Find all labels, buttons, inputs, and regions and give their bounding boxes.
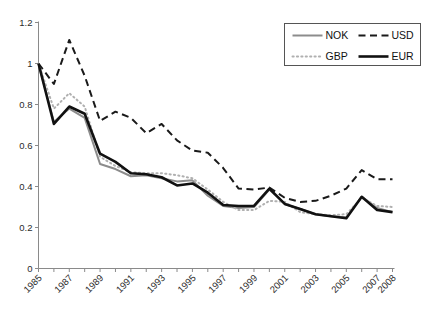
x-tick-label: 1993 — [144, 272, 167, 295]
y-tick-label: 0.6 — [19, 140, 32, 151]
chart-legend: NOKUSDGBPEUR — [285, 24, 421, 66]
x-tick-label: 1989 — [83, 272, 106, 295]
x-tick-label: 1997 — [206, 272, 229, 295]
y-tick-label: 1 — [27, 58, 32, 69]
legend-label-usd: USD — [392, 29, 415, 41]
y-tick-label: 0.8 — [19, 99, 32, 110]
y-tick-label: 0 — [27, 263, 32, 274]
legend-label-gbp: GBP — [326, 50, 348, 62]
x-tick-label: 1987 — [52, 272, 75, 295]
x-tick-label: 1995 — [175, 272, 198, 295]
data-series-group — [39, 40, 393, 218]
x-tick-label: 2008 — [375, 272, 398, 295]
y-tick-label: 0.2 — [19, 222, 32, 233]
x-tick-label: 1985 — [21, 272, 44, 295]
x-tick-label: 1991 — [114, 272, 137, 295]
x-tick-label: 2001 — [267, 272, 290, 295]
series-line-nok — [39, 64, 393, 218]
y-axis: 00.20.40.60.811.2 — [19, 17, 38, 274]
legend-label-eur: EUR — [392, 50, 415, 62]
y-tick-label: 1.2 — [19, 17, 32, 28]
legend-label-nok: NOK — [326, 29, 349, 41]
chart-plot-area: 00.20.40.60.811.2 1985198719891991199319… — [0, 0, 431, 316]
line-chart: 00.20.40.60.811.2 1985198719891991199319… — [0, 0, 431, 316]
x-axis: 1985198719891991199319951997199920012003… — [21, 269, 398, 295]
y-tick-label: 0.4 — [19, 181, 32, 192]
x-tick-label: 2005 — [329, 272, 352, 295]
x-tick-label: 2003 — [298, 272, 321, 295]
x-tick-label: 1999 — [237, 272, 260, 295]
